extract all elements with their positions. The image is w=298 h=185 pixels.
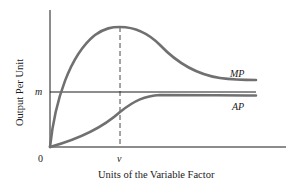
origin-label: 0 [38, 153, 43, 164]
m-tick-label: m [35, 86, 42, 97]
mp-label: MP [229, 68, 244, 79]
x-axis-title: Units of the Variable Factor [98, 169, 215, 180]
y-axis-title: Output Per Unit [14, 59, 25, 126]
ap-curve [50, 95, 256, 147]
chart-svg: 0 v m MP AP Units of the Variable Factor… [0, 0, 298, 185]
ap-label: AP [231, 101, 244, 112]
v-tick-label: v [117, 153, 122, 164]
mp-curve [50, 27, 256, 147]
chart-container: 0 v m MP AP Units of the Variable Factor… [0, 0, 298, 185]
